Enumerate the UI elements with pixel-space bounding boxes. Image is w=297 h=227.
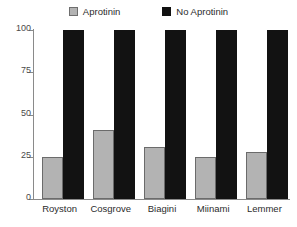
bar-aprotinin xyxy=(246,152,267,199)
bar-group xyxy=(246,30,288,199)
bar-no-aprotinin xyxy=(216,30,237,199)
bar-aprotinin xyxy=(144,147,165,199)
bar-group xyxy=(42,30,84,199)
legend-item-no-aprotinin: No Aprotinin xyxy=(162,7,228,17)
legend-swatch-no-aprotinin-icon xyxy=(162,7,171,16)
y-axis-tick-label: 25 xyxy=(21,151,31,160)
y-axis-tick-label: 0 xyxy=(26,193,31,202)
bar-no-aprotinin xyxy=(114,30,135,199)
legend-label-aprotinin: Aprotinin xyxy=(83,7,121,17)
x-axis-label-cosgrove: Cosgrove xyxy=(85,204,136,214)
bar-aprotinin xyxy=(93,130,114,199)
x-axis-line xyxy=(33,199,290,200)
bar-aprotinin xyxy=(42,157,63,199)
bar-no-aprotinin xyxy=(63,30,84,199)
bar-group xyxy=(93,30,135,199)
y-axis-tick-label: 100 xyxy=(16,24,31,33)
x-axis-label-lemmer: Lemmer xyxy=(239,204,290,214)
x-axis-label-royston: Royston xyxy=(34,204,85,214)
bar-no-aprotinin xyxy=(267,30,288,199)
legend-swatch-aprotinin-icon xyxy=(69,7,78,16)
plot-area: 0255075100 RoystonCosgroveBiaginiMiinami… xyxy=(34,30,290,199)
bar-aprotinin xyxy=(195,157,216,199)
legend-item-aprotinin: Aprotinin xyxy=(69,7,121,17)
legend-label-no-aprotinin: No Aprotinin xyxy=(176,7,228,17)
x-axis-label-miinami: Miinami xyxy=(188,204,239,214)
bar-group xyxy=(195,30,237,199)
y-axis-tick-label: 75 xyxy=(21,66,31,75)
bar-chart-figure: Aprotinin No Aprotinin 0255075100 Roysto… xyxy=(0,0,297,227)
bar-group xyxy=(144,30,186,199)
chart-legend: Aprotinin No Aprotinin xyxy=(0,7,297,17)
bar-no-aprotinin xyxy=(165,30,186,199)
y-axis-tick-label: 50 xyxy=(21,109,31,118)
x-axis-label-biagini: Biagini xyxy=(136,204,187,214)
